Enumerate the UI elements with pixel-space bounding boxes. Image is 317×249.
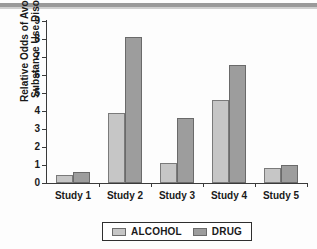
x-axis-tick — [203, 183, 204, 187]
x-axis-spine — [46, 183, 308, 184]
bar-group: Study 2 — [99, 21, 151, 183]
y-axis-title: Relative Odds of Avoiding Substance Use … — [13, 0, 47, 129]
x-axis-tick — [99, 183, 100, 187]
bar-alcohol-study-4[interactable] — [212, 100, 229, 183]
y-axis-title-line-1: Relative Odds of Avoiding — [19, 0, 30, 102]
bar-group: Study 3 — [151, 21, 203, 183]
y-axis-tick-label: 8 — [34, 34, 40, 44]
y-axis-tick — [42, 57, 46, 58]
y-axis-tick — [42, 39, 46, 40]
y-axis-tick-label: 2 — [34, 142, 40, 152]
y-axis-tick — [42, 111, 46, 112]
bar-alcohol-study-2[interactable] — [108, 113, 125, 183]
bar-drug-study-1[interactable] — [73, 172, 90, 183]
x-axis-label: Study 1 — [55, 190, 91, 201]
y-axis-tick — [42, 75, 46, 76]
y-axis-tick-label: 1 — [34, 160, 40, 170]
bar-drug-study-3[interactable] — [177, 118, 194, 183]
y-axis-tick — [42, 147, 46, 148]
bar-group-bars — [203, 21, 255, 183]
bar-drug-study-2[interactable] — [125, 37, 142, 183]
legend-swatch-drug — [193, 228, 207, 236]
y-axis-tick — [42, 93, 46, 94]
bar-group-bars — [151, 21, 203, 183]
x-axis-label: Study 4 — [211, 190, 247, 201]
y-axis-tick — [42, 165, 46, 166]
bar-alcohol-study-5[interactable] — [264, 168, 281, 183]
y-axis-tick-label: 3 — [34, 124, 40, 134]
bar-group-bars — [99, 21, 151, 183]
chart-legend: ALCOHOL DRUG — [102, 222, 252, 241]
y-axis-tick-label: 4 — [34, 106, 40, 116]
legend-item-drug: DRUG — [193, 226, 242, 237]
x-axis-tick — [255, 183, 256, 187]
legend-label-alcohol: ALCOHOL — [131, 226, 182, 237]
x-axis-tick — [151, 183, 152, 187]
y-axis-tick — [42, 129, 46, 130]
legend-swatch-alcohol — [112, 228, 126, 236]
plot-area: 0123456789Study 1Study 2Study 3Study 4St… — [47, 21, 307, 183]
y-axis-tick — [42, 21, 46, 22]
y-axis-tick — [42, 183, 46, 184]
legend-item-alcohol: ALCOHOL — [112, 226, 182, 237]
y-axis-tick-label: 0 — [34, 178, 40, 188]
bar-group-bars — [47, 21, 99, 183]
bar-group: Study 5 — [255, 21, 307, 183]
bar-group-bars — [255, 21, 307, 183]
x-axis-label: Study 3 — [159, 190, 195, 201]
top-banner-rule-shadow — [0, 7, 317, 9]
bar-drug-study-4[interactable] — [229, 65, 246, 183]
chart-figure: Relative Odds of Avoiding Substance Use … — [0, 0, 317, 249]
bar-group: Study 1 — [47, 21, 99, 183]
legend-label-drug: DRUG — [212, 226, 242, 237]
bar-alcohol-study-1[interactable] — [56, 175, 73, 183]
y-axis-tick-label: 6 — [34, 70, 40, 80]
y-axis-tick-label: 7 — [34, 52, 40, 62]
x-axis-label: Study 2 — [107, 190, 143, 201]
x-axis-label: Study 5 — [263, 190, 299, 201]
bar-drug-study-5[interactable] — [281, 165, 298, 183]
x-axis-tick — [307, 183, 308, 187]
bar-alcohol-study-3[interactable] — [160, 163, 177, 183]
bar-group: Study 4 — [203, 21, 255, 183]
y-axis-tick-label: 5 — [34, 88, 40, 98]
y-axis-tick-label: 9 — [34, 16, 40, 26]
